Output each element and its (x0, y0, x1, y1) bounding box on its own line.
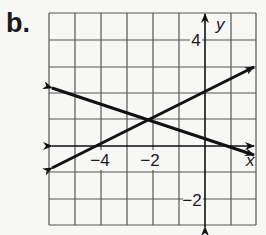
y-axis-label: y (215, 15, 226, 34)
coordinate-graph: −4 −2 4 −2 y x (0, 0, 266, 235)
y-tick-4: 4 (191, 31, 200, 50)
x-tick-neg4: −4 (90, 151, 109, 170)
x-axis-label: x (245, 151, 255, 170)
y-tick-neg2: −2 (182, 191, 201, 210)
x-tick-neg2: −2 (140, 151, 159, 170)
